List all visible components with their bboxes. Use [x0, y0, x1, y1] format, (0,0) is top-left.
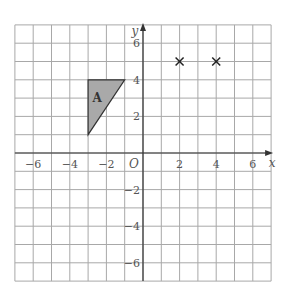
x-tick-label: −2 — [98, 158, 114, 171]
coordinate-grid: A−6−4−2246642−2−4−6Oxy — [0, 0, 283, 300]
x-tick-label: 4 — [213, 158, 220, 171]
y-arrow-icon — [140, 23, 146, 31]
y-tick-label: 2 — [133, 110, 140, 123]
x-tick-label: −6 — [25, 158, 41, 171]
y-tick-label: 6 — [133, 37, 140, 50]
x-tick-label: 6 — [249, 158, 256, 171]
y-axis-label: y — [131, 24, 139, 38]
x-tick-label: 2 — [176, 158, 183, 171]
shape-label: A — [92, 91, 103, 105]
y-tick-label: 4 — [133, 74, 140, 87]
y-tick-label: −4 — [124, 220, 140, 233]
x-axis-label: x — [269, 156, 276, 170]
origin-label: O — [129, 157, 139, 171]
y-tick-label: −2 — [124, 184, 140, 197]
x-tick-label: −4 — [62, 158, 78, 171]
y-tick-label: −6 — [124, 257, 140, 270]
